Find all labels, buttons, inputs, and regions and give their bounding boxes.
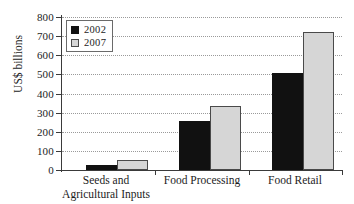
y-tick-label: 400 — [14, 88, 54, 100]
x-category-label-line1: Food Processing — [164, 174, 240, 186]
y-tick-label: 300 — [14, 107, 54, 119]
legend-label-2007: 2007 — [84, 38, 106, 48]
gridline — [62, 55, 342, 56]
bar-2002-seeds — [86, 165, 117, 170]
gridline — [62, 17, 342, 18]
legend-swatch-icon-2007 — [71, 39, 79, 47]
bar-2002-food-retail — [272, 73, 303, 170]
x-category-label-line1: Seeds and — [83, 174, 129, 186]
y-tick-label: 500 — [14, 68, 54, 80]
bar-chart: US$ billions 800 700 600 500 400 300 200… — [0, 0, 354, 204]
bar-2007-food-processing — [210, 106, 241, 170]
legend-label-2002: 2002 — [84, 25, 106, 35]
bar-2007-food-retail — [303, 32, 334, 170]
y-tick-label: 800 — [14, 11, 54, 23]
legend: 2002 2007 — [66, 20, 113, 52]
y-tick-label: 600 — [14, 49, 54, 61]
bar-2002-food-processing — [179, 121, 210, 170]
y-tick-label: 700 — [14, 30, 54, 42]
bar-2007-seeds — [117, 160, 148, 170]
y-tick-label: 100 — [14, 145, 54, 157]
x-category-label-line2: Agricultural Inputs — [46, 188, 166, 202]
legend-item-2007: 2007 — [71, 37, 106, 48]
legend-item-2002: 2002 — [71, 24, 106, 35]
x-category-label-line1: Food Retail — [268, 174, 322, 186]
y-tick-label: 200 — [14, 126, 54, 138]
x-category-label-food-retail: Food Retail — [235, 174, 354, 188]
legend-swatch-icon-2002 — [71, 26, 79, 34]
